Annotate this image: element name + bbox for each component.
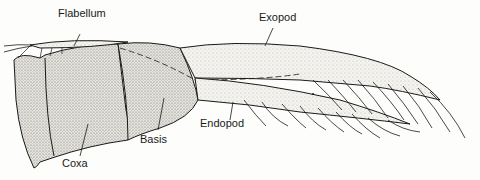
label-coxa: Coxa bbox=[62, 158, 88, 169]
label-flabellum: Flabellum bbox=[58, 8, 106, 19]
label-endopod: Endopod bbox=[200, 118, 244, 129]
coxa-segment bbox=[14, 44, 130, 168]
label-basis: Basis bbox=[140, 134, 167, 145]
label-exopod: Exopod bbox=[259, 12, 296, 23]
appendage-diagram: Flabellum Exopod Endopod Basis Coxa bbox=[0, 0, 480, 180]
appendage-illustration bbox=[0, 0, 480, 180]
